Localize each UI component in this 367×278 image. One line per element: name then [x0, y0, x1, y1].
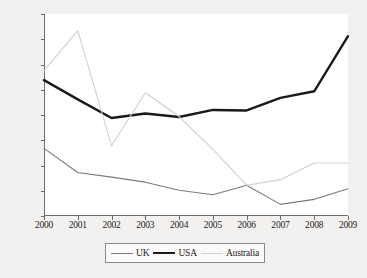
series-lines	[44, 14, 348, 216]
legend-label-australia: Australia	[226, 248, 259, 258]
legend-swatch-australia	[201, 253, 223, 254]
x-tick-mark	[112, 216, 113, 220]
legend-item-usa: USA	[153, 248, 196, 258]
series-line-usa	[44, 36, 348, 118]
x-tick-mark	[145, 216, 146, 220]
x-tick-mark	[44, 216, 45, 220]
chart-legend: UK USA Australia	[105, 243, 265, 263]
x-tick-mark	[314, 216, 315, 220]
x-tick-mark	[213, 216, 214, 220]
chart-screenshot: 0%5%10%15%20%25%30%35%40% 20002001200220…	[0, 0, 367, 278]
legend-label-uk: UK	[136, 248, 149, 258]
x-tick-mark	[179, 216, 180, 220]
x-tick-label: 2009	[326, 220, 367, 230]
legend-item-uk: UK	[111, 248, 149, 258]
series-line-uk	[44, 148, 348, 204]
x-tick-mark	[78, 216, 79, 220]
x-tick-mark	[348, 216, 349, 220]
legend-item-australia: Australia	[201, 248, 259, 258]
series-line-australia	[44, 31, 348, 186]
legend-swatch-usa	[153, 252, 175, 254]
plot-area: 0%5%10%15%20%25%30%35%40% 20002001200220…	[44, 14, 348, 216]
legend-label-usa: USA	[178, 248, 196, 258]
x-tick-mark	[280, 216, 281, 220]
x-tick-mark	[247, 216, 248, 220]
legend-swatch-uk	[111, 253, 133, 254]
